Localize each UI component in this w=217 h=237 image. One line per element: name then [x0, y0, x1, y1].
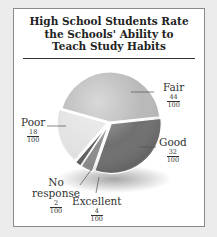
label-poor: Poor 18 100 [21, 117, 45, 144]
label-excellent: Excellent 4 100 [72, 196, 122, 223]
pie-slices [57, 72, 161, 174]
fraction-no-response: 2 100 [50, 200, 62, 215]
label-good: Good 32 100 [159, 137, 187, 164]
fraction-excellent: 4 100 [91, 208, 103, 223]
fraction-good: 32 100 [167, 149, 179, 164]
pie-gloss [60, 72, 160, 172]
chart-frame: High School Students Rate the Schools' A… [13, 8, 205, 227]
label-fair: Fair 44 100 [163, 82, 184, 109]
fraction-fair: 44 100 [167, 94, 179, 109]
fraction-poor: 18 100 [27, 129, 39, 144]
